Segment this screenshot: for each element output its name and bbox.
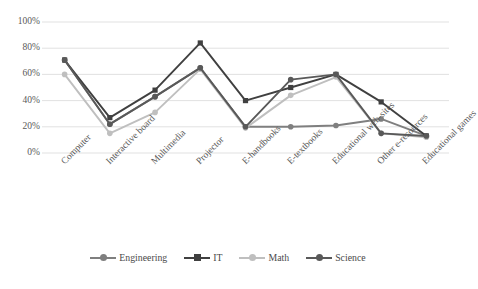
y-tick-label: 20% [0,121,40,131]
data-point [333,123,339,129]
data-point [107,115,112,120]
data-point [288,85,293,90]
data-point [243,124,249,130]
legend-label: Engineering [119,252,167,263]
legend-item-engineering[interactable]: Engineering [90,252,167,263]
data-point [378,131,384,137]
legend-label: IT [213,252,222,263]
legend-marker-icon [184,253,210,263]
legend-item-science[interactable]: Science [306,252,365,263]
data-point [152,110,158,116]
y-tick-label: 100% [0,16,40,26]
data-point [152,94,158,100]
y-tick-label: 80% [0,42,40,52]
legend-item-it[interactable]: IT [184,252,222,263]
chart-legend: EngineeringITMathScience [0,252,456,263]
legend-marker-icon [306,253,332,263]
legend-marker-icon [239,253,265,263]
legend-label: Science [335,252,365,263]
legend-marker-icon [90,253,116,263]
data-point [197,65,203,71]
data-point [288,93,294,99]
data-point [152,88,157,93]
data-point [62,72,68,78]
data-point [424,133,430,139]
data-point [107,131,113,137]
data-point [379,99,384,104]
data-point [243,98,248,103]
y-tick-label: 40% [0,95,40,105]
y-tick-label: 60% [0,68,40,78]
data-point [198,40,203,45]
data-point [107,121,113,127]
data-point [288,77,294,83]
data-point [62,57,68,63]
legend-item-math[interactable]: Math [239,252,289,263]
data-point [288,124,294,130]
legend-label: Math [268,252,289,263]
y-tick-label: 0% [0,147,40,157]
data-point [333,72,339,78]
